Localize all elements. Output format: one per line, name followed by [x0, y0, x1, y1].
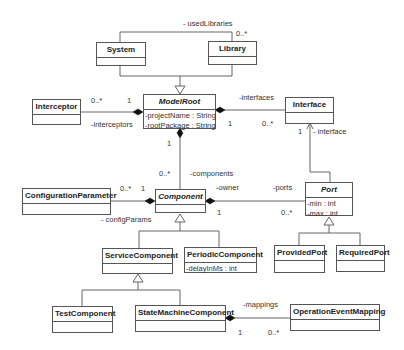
multiplicity-config-params-one: 1: [141, 184, 145, 193]
role-interfaces: -interfaces: [239, 93, 274, 102]
class-state-machine-component: StateMachineComponent: [135, 305, 226, 332]
role-interceptors: -interceptors: [91, 120, 133, 129]
multiplicity-config-params-many: 0..*: [120, 184, 131, 193]
class-component: Component: [155, 189, 206, 213]
multiplicity-interceptors-one: 1: [127, 96, 131, 105]
multiplicity-ports-many: 0..*: [281, 208, 292, 217]
multiplicity-interfaces-one: 1: [228, 119, 232, 128]
role-owner: -owner: [216, 183, 239, 192]
role-ports: -ports: [273, 183, 292, 192]
class-system: System: [96, 42, 146, 66]
role-used-libraries: - usedLibraries: [183, 19, 233, 28]
attribute: -projectName : String: [145, 111, 214, 121]
multiplicity-interfaces-many: 0..*: [262, 119, 273, 128]
class-service-component: ServiceComponent: [102, 248, 173, 274]
attribute: -max : int: [307, 209, 351, 219]
class-name: System: [97, 43, 145, 58]
composition-diamond-interfaces: [215, 107, 225, 113]
attribute: -min : int: [307, 199, 351, 209]
attribute: -delayInMs : int: [186, 264, 255, 274]
multiplicity-components-many: 0..*: [159, 169, 170, 178]
class-library: Library: [208, 41, 257, 65]
multiplicity-interceptors-many: 0..*: [91, 96, 102, 105]
class-required-port: RequiredPort: [336, 245, 385, 272]
class-name: Port: [306, 183, 352, 198]
composition-diamond-config: [145, 198, 155, 204]
generalization-arrow-service: [133, 274, 143, 282]
class-interceptor: Interceptor: [32, 99, 81, 125]
class-interface: Interface: [285, 97, 334, 124]
multiplicity-components-one: 1: [167, 139, 171, 148]
role-interface: - interface: [313, 127, 346, 136]
class-periodic-component: PeriodicComponent -delayInMs : int: [184, 247, 257, 273]
multiplicity-mappings-one: 1: [238, 328, 242, 337]
class-test-component: TestComponent: [52, 306, 113, 333]
generalization-arrow-modelroot: [175, 86, 185, 94]
service-component-generalization: [82, 290, 180, 306]
role-mappings: -mappings: [243, 300, 278, 309]
role-config-params: - configParams: [101, 215, 151, 224]
class-name: PeriodicComponent: [185, 248, 256, 263]
class-name: TestComponent: [53, 307, 112, 322]
port-generalization: [299, 233, 360, 245]
class-name: Library: [209, 42, 256, 57]
class-name: Component: [156, 190, 205, 205]
class-model-root: ModelRoot -projectName : String -rootPac…: [143, 94, 216, 129]
composition-diamond-ports: [205, 198, 215, 204]
class-configuration-parameter: ConfigurationParameter: [22, 188, 111, 215]
multiplicity-used-libraries: 0..*: [236, 29, 247, 38]
class-name: Interface: [286, 98, 333, 113]
multiplicity-interface: 1: [298, 127, 302, 136]
class-name: ProvidedPort: [275, 246, 324, 261]
multiplicity-mappings-many: 0..*: [268, 328, 279, 337]
class-port: Port -min : int -max : int: [305, 182, 353, 216]
role-components: -components: [190, 169, 233, 178]
attribute: -rootPackage : String: [145, 121, 214, 131]
multiplicity-ports-one: 1: [217, 208, 221, 217]
class-name: ServiceComponent: [103, 249, 172, 264]
class-name: Interceptor: [33, 100, 80, 115]
class-provided-port: ProvidedPort: [274, 245, 325, 273]
composition-diamond-interceptors: [133, 109, 143, 115]
class-name: OperationEventMapping: [291, 305, 379, 320]
component-generalization: [139, 231, 219, 248]
class-name: ModelRoot: [144, 95, 215, 110]
class-operation-event-mapping: OperationEventMapping: [290, 304, 380, 331]
class-name: StateMachineComponent: [136, 306, 225, 321]
class-name: RequiredPort: [337, 246, 384, 261]
class-name: ConfigurationParameter: [23, 189, 110, 204]
